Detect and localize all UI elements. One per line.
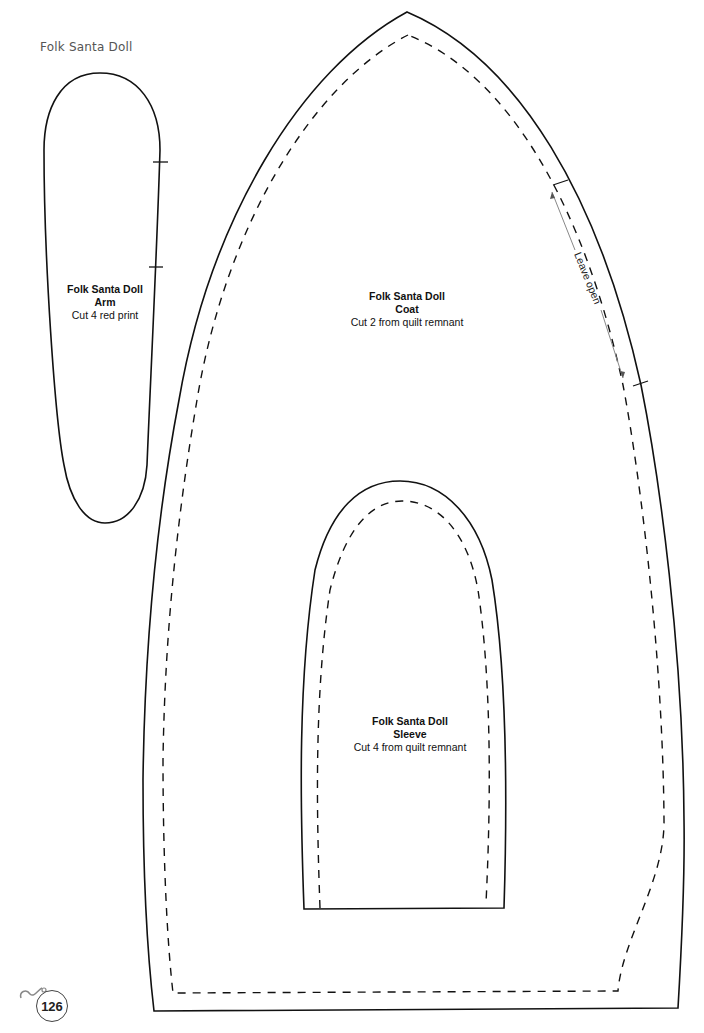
arm-instruction: Cut 4 red print	[67, 309, 143, 322]
coat-subtitle: Coat	[351, 303, 464, 316]
coat-title: Folk Santa Doll	[351, 290, 464, 303]
sleeve-instruction: Cut 4 from quilt remnant	[354, 741, 467, 754]
arm-label: Folk Santa Doll Arm Cut 4 red print	[67, 283, 143, 322]
coat-notch-1	[553, 180, 568, 185]
pattern-pieces	[0, 0, 704, 1033]
page-number: 126	[36, 990, 68, 1022]
sleeve-title: Folk Santa Doll	[354, 715, 467, 728]
coat-instruction: Cut 2 from quilt remnant	[351, 316, 464, 329]
arm-title: Folk Santa Doll	[67, 283, 143, 296]
arm-subtitle: Arm	[67, 296, 143, 309]
sleeve-piece	[301, 481, 505, 909]
sleeve-subtitle: Sleeve	[354, 728, 467, 741]
coat-label: Folk Santa Doll Coat Cut 2 from quilt re…	[351, 290, 464, 329]
coat-piece	[143, 12, 684, 1011]
sleeve-label: Folk Santa Doll Sleeve Cut 4 from quilt …	[354, 715, 467, 754]
